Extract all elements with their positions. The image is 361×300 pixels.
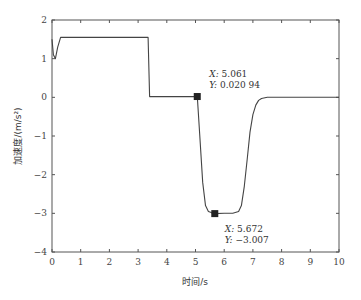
x-tick-label: 9 <box>307 257 313 267</box>
line-chart: 012345678910210−1−2−3−4 X: 5.061Y: 0.020… <box>0 0 361 300</box>
data-tip-marker <box>194 93 201 100</box>
data-tip-y: Y: 0.020 94 <box>209 80 260 90</box>
x-tick-label: 3 <box>135 257 141 267</box>
plot-border <box>52 20 339 252</box>
x-tick-label: 7 <box>250 257 256 267</box>
x-tick-label: 2 <box>107 257 113 267</box>
data-tip-marker <box>211 210 218 217</box>
x-tick-label: 4 <box>164 257 170 267</box>
data-tip-x: X: 5.061 <box>208 69 247 79</box>
y-axis-title: 加速度/(m/s²) <box>12 107 23 164</box>
plot-frame <box>52 20 339 252</box>
series-line <box>52 37 339 213</box>
y-tick-label: 1 <box>41 54 47 64</box>
x-tick-label: 0 <box>49 257 55 267</box>
data-tip-x: X: 5.672 <box>224 224 263 234</box>
data-tip-annotations: X: 5.061Y: 0.020 94X: 5.672Y: −3.007 <box>208 69 269 245</box>
x-tick-label: 8 <box>279 257 285 267</box>
data-tip-markers <box>194 93 219 217</box>
y-tick-label: −4 <box>34 247 48 257</box>
x-tick-label: 5 <box>193 257 199 267</box>
x-tick-label: 10 <box>333 257 345 267</box>
x-tick-label: 1 <box>78 257 84 267</box>
y-tick-label: −3 <box>34 208 48 218</box>
data-tip-y: Y: −3.007 <box>225 235 269 245</box>
y-tick-label: −1 <box>34 131 47 141</box>
data-series <box>52 37 339 213</box>
x-tick-label: 6 <box>221 257 227 267</box>
y-tick-label: −2 <box>34 170 47 180</box>
x-axis-title: 时间/s <box>182 276 208 287</box>
y-tick-label: 2 <box>41 15 47 25</box>
axis-ticks: 012345678910210−1−2−3−4 <box>34 15 345 267</box>
y-tick-label: 0 <box>41 92 47 102</box>
